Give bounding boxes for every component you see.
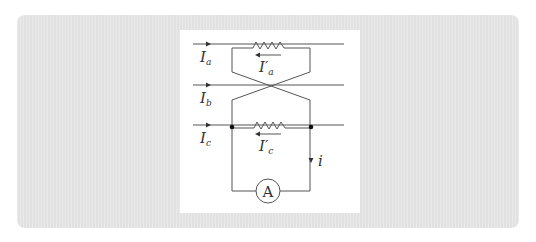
label-Ib: Ib — [199, 89, 212, 108]
arrow-down-icon — [309, 158, 314, 163]
arrow-right-icon — [206, 42, 211, 47]
label-Ic-prime: I′c — [258, 137, 273, 156]
arrow-left-icon — [255, 132, 260, 137]
arrow-left-icon — [255, 53, 260, 58]
label-Ia-prime: I′a — [258, 58, 274, 77]
junction-dot-left — [230, 125, 235, 130]
circuit-diagram: A Ia Ib Ic I′a I′c i — [180, 30, 360, 213]
label-Ic: Ic — [199, 129, 211, 148]
label-Ia: Ia — [199, 48, 211, 67]
junction-dot-right — [309, 125, 314, 130]
circuit-figure: A Ia Ib Ic I′a I′c i — [180, 30, 360, 213]
ammeter-symbol: A — [262, 183, 274, 201]
label-i: i — [318, 152, 323, 170]
arrow-right-icon — [206, 123, 211, 128]
arrow-right-icon — [206, 83, 211, 88]
